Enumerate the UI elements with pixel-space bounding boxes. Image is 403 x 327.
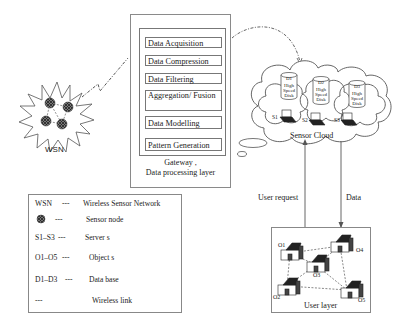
object-o1-label: O1: [278, 243, 285, 248]
server-s1-label: S1: [272, 115, 278, 120]
server-s3-label: S3: [334, 118, 340, 123]
gateway-caption: Gateway , Data processing layer: [130, 158, 231, 178]
object-o4-label: O4: [356, 248, 363, 253]
legend-dash: ---: [35, 296, 43, 306]
wsn-label: WSN: [45, 145, 64, 154]
database-d3-id: D3: [349, 84, 365, 89]
legend-dash: ---: [62, 199, 70, 209]
user-layer-label: User layer: [304, 301, 337, 310]
database-d1-label: D1 High Speed Disk: [281, 76, 297, 98]
step-data-filtering: Data Filtering: [145, 73, 222, 84]
gateway-caption-line1: Gateway ,: [130, 158, 231, 168]
step-pattern-generation: Pattern Generation: [145, 138, 222, 151]
legend-key: D1–D3: [35, 275, 57, 285]
database-d2-label: D2 High Speed Disk: [313, 80, 329, 102]
database-d3-label: D3 High Speed Disk: [349, 84, 365, 106]
database-d2-id: D2: [313, 80, 329, 85]
user-request-label: User request: [258, 193, 298, 202]
database-d3-text: High Speed Disk: [349, 91, 365, 106]
legend-key: O1–O5: [35, 253, 57, 263]
wireless-link-wsn-gateway: [82, 58, 128, 97]
legend-dash: ---: [58, 233, 66, 243]
step-data-acquisition: Data Acquisition: [145, 37, 222, 48]
database-d1-id: D1: [281, 76, 297, 81]
object-o2-label: O2: [273, 295, 280, 300]
wireless-link-gateway-cloud: [232, 27, 300, 62]
legend-desc: Server s: [85, 233, 110, 243]
legend-key: S1–S3: [35, 233, 55, 243]
gateway-caption-line2: Data processing layer: [130, 168, 231, 178]
legend-desc: Wireless link: [92, 296, 132, 306]
legend-dash: ---: [55, 215, 63, 225]
object-o5-label: O5: [358, 298, 365, 303]
legend-dash: ---: [65, 275, 73, 285]
server-s2-label: S2: [302, 118, 308, 123]
legend-desc: Sensor node: [86, 215, 123, 225]
object-o3-label: O3: [313, 273, 320, 278]
sensor-cloud-label: Sensor Cloud: [290, 131, 333, 140]
legend-desc: Data base: [89, 275, 119, 285]
step-aggregation-fusion: Aggregation/ Fusion: [145, 90, 222, 111]
database-d2-text: High Speed Disk: [313, 87, 329, 102]
legend-desc: Wireless Sensor Network: [83, 199, 160, 209]
database-d1-text: High Speed Disk: [281, 83, 297, 98]
legend-desc: Object s: [89, 253, 114, 263]
legend-dash: ---: [62, 253, 70, 263]
step-data-modelling: Data Modelling: [145, 116, 222, 129]
legend-key: WSN: [35, 199, 52, 209]
wsn-starburst: [19, 82, 94, 152]
legend-box: WSN --- Wireless Sensor Network --- Sens…: [28, 194, 182, 313]
data-label: Data: [346, 193, 361, 202]
step-data-compression: Data Compression: [145, 55, 222, 66]
